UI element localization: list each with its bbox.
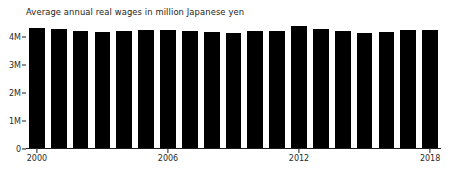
y-axis-tick-label: 2M (9, 88, 21, 97)
bar-2016 (379, 32, 395, 149)
bar-2007 (182, 31, 198, 149)
x-axis-tick-label: 2006 (158, 154, 178, 163)
bar-2005 (138, 30, 154, 149)
bar-chart-figure: Average annual real wages in million Jap… (0, 0, 449, 183)
x-axis-tick-label: 2000 (27, 154, 47, 163)
bar-2003 (95, 32, 111, 149)
bars-layer (26, 20, 441, 149)
bar-2011 (269, 31, 285, 149)
x-axis-tick-label: 2012 (289, 154, 309, 163)
bar-2017 (400, 30, 416, 149)
x-axis-tick-mark (429, 149, 430, 153)
bar-2004 (116, 31, 132, 149)
bar-2006 (160, 30, 176, 149)
bar-2014 (335, 31, 351, 149)
bar-2001 (51, 29, 67, 149)
bar-2018 (422, 30, 438, 149)
x-axis-tick-label: 2018 (420, 154, 440, 163)
y-axis-tick-label: 4M (9, 32, 21, 41)
chart-title: Average annual real wages in million Jap… (26, 7, 244, 17)
x-axis-baseline (26, 148, 441, 149)
bar-2010 (247, 31, 263, 149)
y-axis-tick-label: 1M (9, 116, 21, 125)
bar-2009 (226, 33, 242, 149)
y-axis-tick-label: 0 (16, 145, 21, 154)
bar-2002 (73, 31, 89, 149)
bar-2015 (357, 33, 373, 149)
plot-area: 01M2M3M4M 2000200620122018 (26, 20, 441, 149)
bar-2008 (204, 32, 220, 150)
x-axis-tick-mark (298, 149, 299, 153)
x-axis-tick-mark (167, 149, 168, 153)
y-axis-tick-label: 3M (9, 60, 21, 69)
x-axis-tick-mark (36, 149, 37, 153)
bar-2012 (291, 26, 307, 149)
bar-2000 (29, 28, 45, 149)
bar-2013 (313, 29, 329, 149)
